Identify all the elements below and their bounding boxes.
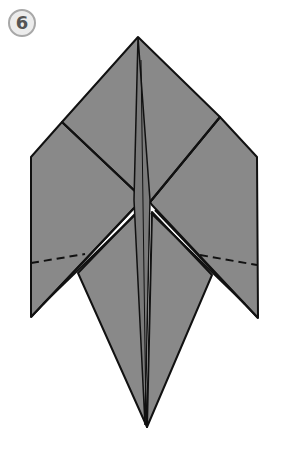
origami-diagram [0,0,282,449]
